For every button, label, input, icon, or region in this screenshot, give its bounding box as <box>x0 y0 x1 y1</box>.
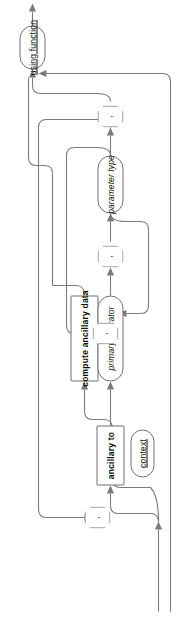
node-parameter-type[interactable]: parameter type <box>97 155 123 213</box>
node-comma-1-label: , <box>103 115 113 117</box>
node-context-oval[interactable]: context <box>130 429 154 477</box>
node-ancillary-to-label: ancillary to <box>105 431 115 478</box>
diagram-viewport: ancillary to context context compute anc… <box>0 0 192 625</box>
node-parameter-type-label: parameter type <box>105 155 115 214</box>
node-using-function-label: using function <box>27 19 37 74</box>
node-using-function[interactable]: using function <box>19 25 45 69</box>
node-comma-3-label: , <box>98 332 108 334</box>
node-ancillary-to[interactable]: ancillary to <box>96 425 124 485</box>
railroad-diagram-canvas: ancillary to context context compute anc… <box>0 0 192 625</box>
node-context-label: context <box>137 439 147 468</box>
node-comma-2-label: , <box>90 516 100 518</box>
node-compute-ancillary-data-label: compute ancillary data <box>79 290 89 387</box>
node-comma-4-label: , <box>103 255 113 257</box>
